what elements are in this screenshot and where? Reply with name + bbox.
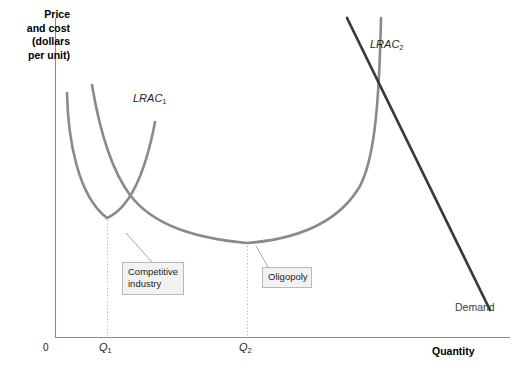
curve-label-lrac2: LRAC2 [370, 38, 404, 51]
x-tick-q2-subscript: 2 [248, 346, 252, 355]
callout-competitive-industry: Competitive industry [122, 262, 184, 295]
curve-label-lrac1: LRAC1 [133, 92, 167, 105]
lrac2-curve [92, 18, 381, 243]
callout-oligopoly: Oligopoly [262, 267, 312, 288]
x-tick-label-q1: Q1 [99, 341, 112, 354]
curve-label-demand: Demand [455, 301, 495, 313]
x-tick-label-q2: Q2 [239, 341, 252, 354]
lrac1-label-text: LRAC [133, 92, 162, 104]
lrac1-label-subscript: 1 [162, 97, 166, 106]
y-axis-title: Price and cost (dollars per unit) [0, 8, 70, 63]
x-tick-q1-subscript: 1 [108, 346, 112, 355]
origin-label: 0 [43, 342, 49, 354]
x-axis-title: Quantity [432, 345, 475, 357]
plot-canvas [0, 0, 528, 377]
lrac2-label-text: LRAC [370, 38, 399, 50]
lrac2-label-subscript: 2 [399, 43, 403, 52]
economics-figure: Price and cost (dollars per unit) Quanti… [0, 0, 528, 377]
x-tick-q1-text: Q [99, 341, 108, 353]
leader-line-competitive [126, 233, 152, 262]
x-tick-q2-text: Q [239, 341, 248, 353]
leader-line-oligopoly [256, 246, 268, 267]
